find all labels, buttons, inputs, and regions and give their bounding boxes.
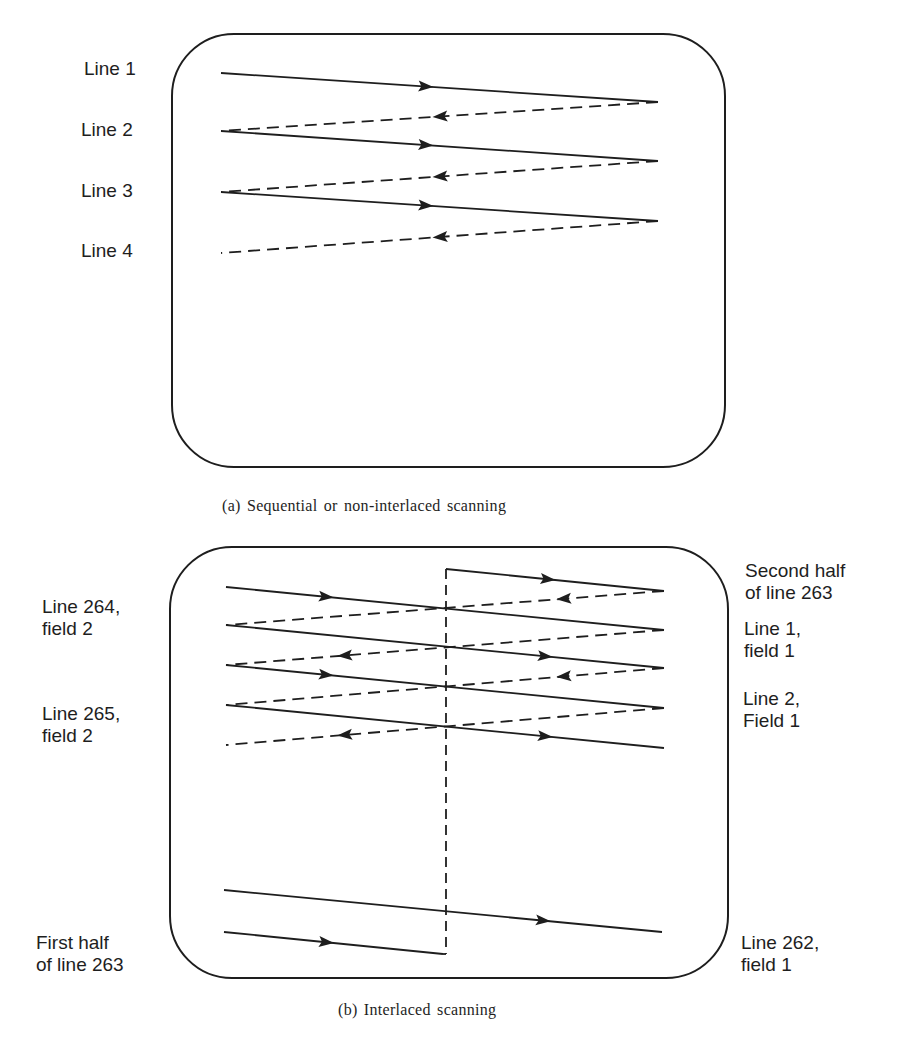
- label-first-half-line-263: First half of line 263: [36, 932, 124, 976]
- label-text: field 1: [741, 954, 819, 976]
- label-text: field 2: [42, 618, 120, 640]
- label-line-3: Line 3: [81, 180, 133, 202]
- label-text: field 1: [744, 640, 801, 662]
- label-text: Line 264,: [42, 596, 120, 618]
- scanning-diagram-canvas: [0, 0, 916, 1051]
- panel-b-interlaced-scan-diagram: [170, 547, 728, 978]
- label-text: of line 263: [36, 954, 124, 976]
- label-text: Field 1: [743, 710, 800, 732]
- label-text: Line 262,: [741, 932, 819, 954]
- label-text: Line 1: [84, 58, 136, 80]
- label-text: Line 4: [81, 240, 133, 262]
- scanning-diagram-figure: Line 1 Line 2 Line 3 Line 4 (a) Sequenti…: [0, 0, 916, 1051]
- scan-line-trace: [224, 890, 662, 932]
- label-line-1: Line 1: [84, 58, 136, 80]
- label-text: Line 2: [81, 119, 133, 141]
- label-text: Line 3: [81, 180, 133, 202]
- label-line-262-field-1: Line 262, field 1: [741, 932, 819, 976]
- label-second-half-line-263: Second half of line 263: [745, 560, 845, 604]
- caption-panel-a: (a) Sequential or non-interlaced scannin…: [222, 497, 506, 515]
- label-line-4: Line 4: [81, 240, 133, 262]
- caption-panel-b: (b) Interlaced scanning: [338, 1001, 496, 1019]
- scan-line-trace: [221, 73, 658, 102]
- label-text: First half: [36, 932, 124, 954]
- label-line-264-field-2: Line 264, field 2: [42, 596, 120, 640]
- label-text: Line 2,: [743, 688, 800, 710]
- scan-line-trace: [221, 131, 658, 161]
- scan-line-trace: [226, 625, 664, 668]
- retrace-line: [226, 591, 664, 625]
- label-line-1-field-1: Line 1, field 1: [744, 618, 801, 662]
- label-line-265-field-2: Line 265, field 2: [42, 703, 120, 747]
- panel-a-sequential-scan-diagram: [172, 34, 725, 467]
- label-line-2-field-1: Line 2, Field 1: [743, 688, 800, 732]
- retrace-line: [226, 668, 664, 705]
- label-line-2: Line 2: [81, 119, 133, 141]
- label-text: Second half: [745, 560, 845, 582]
- scan-line-trace: [221, 192, 658, 221]
- label-text: Line 1,: [744, 618, 801, 640]
- label-text: field 2: [42, 725, 120, 747]
- label-text: Line 265,: [42, 703, 120, 725]
- screen-frame-panel-b: [170, 547, 728, 978]
- retrace-line: [226, 630, 664, 665]
- label-text: of line 263: [745, 582, 845, 604]
- retrace-line: [226, 708, 664, 745]
